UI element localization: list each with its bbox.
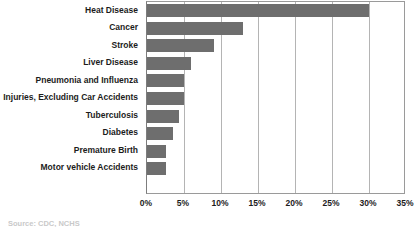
category-label: Injuries, Excluding Car Accidents (0, 89, 142, 107)
bar-row (147, 160, 406, 178)
category-label: Heat Disease (0, 1, 142, 19)
x-tick-label: 0% (140, 198, 152, 208)
category-label: Diabetes (0, 124, 142, 142)
bar-row (147, 72, 406, 90)
category-label: Liver Disease (0, 54, 142, 72)
bar-row (147, 107, 406, 125)
bar-row (147, 142, 406, 160)
bar-row (147, 20, 406, 38)
category-label: Stroke (0, 36, 142, 54)
bar (147, 145, 166, 158)
source-caption: Source: CDC, NCHS (8, 219, 80, 227)
bar (147, 39, 214, 52)
bar (147, 92, 184, 105)
plot-area (146, 1, 405, 194)
category-axis-labels: Heat DiseaseCancerStrokeLiver DiseasePne… (0, 1, 142, 194)
x-tick-label: 35% (396, 198, 413, 208)
category-label: Pneumonia and Influenza (0, 71, 142, 89)
bar-row (147, 55, 406, 73)
bar-row (147, 37, 406, 55)
category-label: Motor vehicle Accidents (0, 159, 142, 177)
bar (147, 162, 166, 175)
x-axis-tick-labels: 0%5%10%15%20%25%30%35% (146, 198, 405, 212)
x-tick-label: 15% (248, 198, 265, 208)
x-tick-label: 20% (285, 198, 302, 208)
bar (147, 74, 184, 87)
x-tick-label: 10% (211, 198, 228, 208)
bar (147, 127, 173, 140)
x-tick-label: 5% (177, 198, 189, 208)
x-tick-label: 25% (322, 198, 339, 208)
category-label: Cancer (0, 19, 142, 37)
bar-row (147, 90, 406, 108)
bar (147, 110, 179, 123)
bar-chart: Heat DiseaseCancerStrokeLiver DiseasePne… (0, 0, 419, 227)
bar (147, 4, 369, 17)
bar-row (147, 2, 406, 20)
bar (147, 22, 243, 35)
x-tick-label: 30% (359, 198, 376, 208)
bar (147, 57, 191, 70)
bar-row (147, 125, 406, 143)
category-label: Premature Birth (0, 141, 142, 159)
category-label: Tuberculosis (0, 106, 142, 124)
